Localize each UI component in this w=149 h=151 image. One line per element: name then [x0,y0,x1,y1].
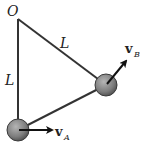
rod-length-label-OA: L [4,72,14,88]
rod-length-label-OB: L [59,35,69,51]
velocity-subscript-A: A [63,133,70,142]
velocity-subscript-B: B [133,50,140,59]
pivot-label: O [7,3,19,19]
two-ball-rod-diagram: O L L v A v B [0,0,149,151]
velocity-label-A: v [54,124,63,139]
rod-O-to-B [18,19,106,85]
velocity-label-B: v [124,41,133,56]
